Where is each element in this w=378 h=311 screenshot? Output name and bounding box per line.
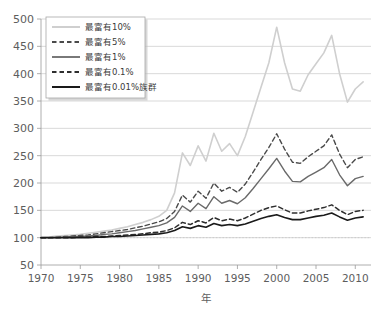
chart-legend[interactable]: 最富有10%最富有5%最富有1%最富有0.1%最富有0.01%族群 bbox=[46, 17, 157, 101]
chart-container: 50100150200250300350400450500 1970197519… bbox=[0, 0, 378, 311]
x-axis-tick-labels: 197019751980198519901995200020052010 bbox=[28, 272, 369, 284]
legend-label-2: 最富有1% bbox=[85, 52, 126, 62]
y-tick-label-250: 250 bbox=[13, 150, 34, 163]
chart-title bbox=[0, 0, 378, 4]
legend-label-4: 最富有0.01%族群 bbox=[85, 82, 157, 92]
x-tick-label-1970: 1970 bbox=[28, 272, 55, 284]
y-tick-label-150: 150 bbox=[13, 204, 34, 217]
x-tick-label-1980: 1980 bbox=[106, 272, 133, 284]
y-tick-label-200: 200 bbox=[13, 177, 34, 190]
x-tick-label-1975: 1975 bbox=[67, 272, 94, 284]
y-tick-label-350: 350 bbox=[13, 95, 34, 108]
y-tick-label-500: 500 bbox=[13, 13, 34, 26]
y-tick-label-50: 50 bbox=[20, 259, 34, 272]
legend-label-0: 最富有10% bbox=[85, 22, 131, 32]
income-index-line-chart: 50100150200250300350400450500 1970197519… bbox=[0, 0, 378, 311]
y-axis-tick-labels: 50100150200250300350400450500 bbox=[13, 13, 34, 272]
x-tick-label-1990: 1990 bbox=[185, 272, 212, 284]
legend-label-1: 最富有5% bbox=[85, 37, 126, 47]
y-tick-label-400: 400 bbox=[13, 68, 34, 81]
x-tick-label-2005: 2005 bbox=[303, 272, 330, 284]
legend-label-3: 最富有0.1% bbox=[85, 67, 134, 77]
x-tick-label-1995: 1995 bbox=[224, 272, 251, 284]
x-axis-title: 年 bbox=[201, 292, 211, 304]
y-tick-label-450: 450 bbox=[13, 40, 34, 53]
x-tick-label-1985: 1985 bbox=[145, 272, 172, 284]
x-axis-title-label: 年 bbox=[201, 292, 211, 304]
x-tick-label-2010: 2010 bbox=[342, 272, 369, 284]
y-tick-label-100: 100 bbox=[13, 232, 34, 245]
x-tick-label-2000: 2000 bbox=[263, 272, 290, 284]
y-tick-label-300: 300 bbox=[13, 122, 34, 135]
series-line-4 bbox=[41, 213, 363, 238]
